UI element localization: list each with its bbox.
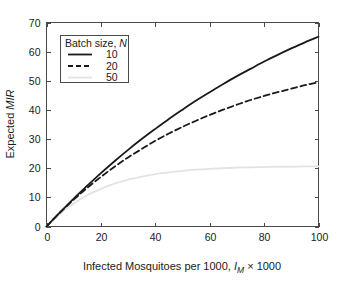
y-axis-tick-labels: 010203040506070 (29, 17, 41, 233)
x-axis-tick-labels: 020406080100 (45, 231, 329, 243)
y-tick-label: 50 (29, 75, 41, 87)
y-tick-label: 40 (29, 104, 41, 116)
y-tick-label: 30 (29, 133, 41, 145)
x-tick-label: 0 (45, 231, 51, 243)
y-axis-title: Expected MIR (4, 89, 16, 158)
chart-plot-area: 020406080100 010203040506070 Infected Mo… (0, 0, 344, 283)
x-tick-label: 60 (205, 231, 217, 243)
chart-figure: 020406080100 010203040506070 Infected Mo… (0, 0, 344, 283)
y-tick-label: 60 (29, 46, 41, 58)
legend-label-20: 20 (106, 60, 118, 72)
y-tick-label: 20 (29, 162, 41, 174)
chart-legend: Batch size, N 102050 (61, 36, 129, 84)
legend-title: Batch size, N (65, 37, 127, 49)
series-line-50 (47, 166, 319, 226)
y-tick-label: 0 (35, 221, 41, 233)
legend-label-10: 10 (106, 48, 118, 60)
series-line-20 (47, 82, 319, 226)
x-tick-label: 40 (150, 231, 162, 243)
y-tick-label: 70 (29, 17, 41, 29)
x-tick-label: 100 (311, 231, 329, 243)
x-tick-label: 80 (259, 231, 271, 243)
x-axis-title: Infected Mosquitoes per 1000, IM × 1000 (83, 260, 281, 275)
x-tick-label: 20 (96, 231, 108, 243)
y-tick-label: 10 (29, 191, 41, 203)
legend-label-50: 50 (106, 71, 118, 83)
